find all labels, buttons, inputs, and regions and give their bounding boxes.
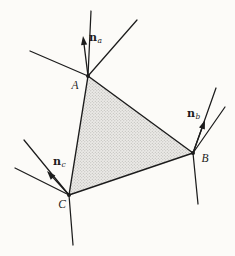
normal-label-nc-base: n bbox=[53, 155, 61, 168]
vertex-label-A: A bbox=[71, 80, 78, 92]
edge-ray-b-5 bbox=[193, 153, 198, 204]
normal-arrow-shaft-b bbox=[193, 127, 203, 153]
triangle-diagram bbox=[0, 0, 235, 256]
vertex-label-C: C bbox=[58, 199, 66, 211]
normal-arrowhead-a bbox=[81, 36, 87, 45]
normal-label-nc-sub: c bbox=[62, 160, 66, 169]
normal-label-na-base: n bbox=[89, 31, 97, 44]
normal-label-nb: nb bbox=[187, 108, 200, 121]
normal-arrow-shaft-a bbox=[84, 43, 88, 76]
edge-ray-c-7 bbox=[15, 168, 69, 195]
edge-ray-c-8 bbox=[69, 195, 73, 245]
normal-label-na-sub: a bbox=[98, 36, 102, 45]
vertex-label-B: B bbox=[201, 153, 208, 165]
normal-label-nc: nc bbox=[53, 156, 66, 169]
triangle-face bbox=[69, 76, 193, 195]
vertex-dot-a bbox=[86, 74, 90, 78]
edge-ray-a-1 bbox=[88, 20, 137, 76]
normal-arrowhead-b bbox=[199, 120, 205, 130]
normal-label-na: na bbox=[89, 32, 102, 45]
vertex-dot-c bbox=[67, 193, 71, 197]
figure-canvas: A B C na nb nc bbox=[0, 0, 235, 256]
edge-ray-a-2 bbox=[30, 51, 88, 76]
normal-label-nb-sub: b bbox=[196, 112, 201, 121]
vertex-dot-b bbox=[191, 151, 195, 155]
normal-label-nb-base: n bbox=[187, 107, 195, 120]
normal-arrow-shaft-c bbox=[52, 176, 69, 195]
